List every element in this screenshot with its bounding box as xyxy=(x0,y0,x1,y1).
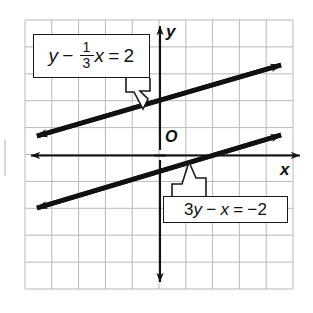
eq1-frac-denominator: 3 xyxy=(80,55,94,70)
eq1-coef-var: x xyxy=(95,45,105,67)
eq1-rhs: 2 xyxy=(124,45,135,67)
eq1-frac-numerator: 1 xyxy=(80,40,94,54)
eq2-coef: 3 xyxy=(184,200,194,220)
equation-2-text: 3 y − x = −2 xyxy=(184,200,267,220)
eq1-operator: − xyxy=(62,45,73,67)
origin-label: O xyxy=(165,128,177,146)
x-axis-label: x xyxy=(280,160,289,180)
eq1-equals: = xyxy=(108,45,119,67)
equation-label-2: 3 y − x = −2 xyxy=(163,196,288,223)
eq2-equals: = xyxy=(233,200,243,220)
eq2-second-var: x xyxy=(220,200,229,220)
eq2-lhs-var: y xyxy=(194,200,203,220)
eq2-operator: − xyxy=(206,200,216,220)
eq1-fraction: 1 3 xyxy=(80,40,94,70)
graph-figure: y − 1 3 x = 2 3 y − x = −2 y x O xyxy=(0,0,313,313)
eq2-rhs: −2 xyxy=(247,200,267,220)
eq1-lhs-var: y xyxy=(49,45,59,67)
y-axis-label: y xyxy=(166,22,175,42)
equation-1-text: y − 1 3 x = 2 xyxy=(49,41,135,71)
equation-label-1: y − 1 3 x = 2 xyxy=(33,34,150,78)
